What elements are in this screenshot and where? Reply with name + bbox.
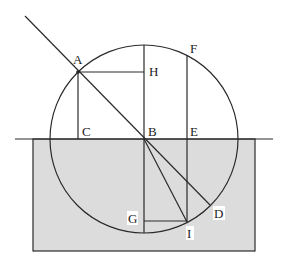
label-I: I [187, 226, 191, 241]
label-H: H [149, 64, 158, 79]
label-A: A [73, 52, 83, 67]
label-B: B [148, 124, 157, 139]
label-E: E [190, 124, 198, 139]
point-A [76, 70, 80, 74]
label-G: G [128, 211, 137, 226]
label-F: F [190, 41, 197, 56]
label-C: C [82, 124, 91, 139]
label-D: D [214, 206, 223, 221]
refraction-diagram: A H F C B E G D I [0, 0, 285, 267]
